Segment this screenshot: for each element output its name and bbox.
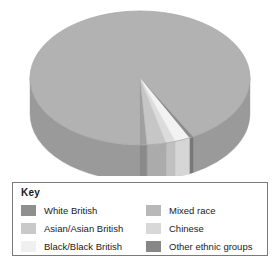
legend-box: Key White British Asian/Asian British Bl… xyxy=(12,182,268,256)
legend-swatch-chinese xyxy=(146,223,161,234)
legend-column-left: White British Asian/Asian British Black/… xyxy=(21,202,149,256)
legend-item[interactable]: Asian/Asian British xyxy=(21,220,149,237)
legend-item[interactable]: Black/Black British xyxy=(21,238,149,255)
pie-side-4 xyxy=(147,143,166,176)
legend-label: Other ethnic groups xyxy=(169,241,252,252)
pie-top-faces xyxy=(30,11,250,145)
legend-swatch-mixed-race xyxy=(146,205,161,216)
legend-item[interactable]: Other ethnic groups xyxy=(146,238,266,255)
legend-title: Key xyxy=(21,187,40,198)
legend-label: Asian/Asian British xyxy=(44,223,123,234)
legend-swatch-asian-asian-british xyxy=(21,223,36,234)
pie-svg xyxy=(0,0,278,176)
legend-column-right: Mixed race Chinese Other ethnic groups xyxy=(146,202,266,256)
legend-swatch-other-ethnic-groups xyxy=(146,241,161,252)
legend-swatch-black-black-british xyxy=(21,241,36,252)
pie-chart-graphic xyxy=(0,0,278,176)
legend-label: White British xyxy=(44,205,97,216)
legend-label: Mixed race xyxy=(169,205,215,216)
legend-label: Chinese xyxy=(169,223,204,234)
pie-side-5 xyxy=(140,145,147,176)
pie-side-1 xyxy=(189,137,193,174)
legend-item[interactable]: Mixed race xyxy=(146,202,266,219)
pie-chart-figure: Key White British Asian/Asian British Bl… xyxy=(0,0,278,267)
pie-side-3 xyxy=(166,141,175,176)
legend-item[interactable]: Chinese xyxy=(146,220,266,237)
legend-swatch-white-british xyxy=(21,205,36,216)
legend-label: Black/Black British xyxy=(44,241,122,252)
pie-side-2 xyxy=(175,138,189,176)
legend-item[interactable]: White British xyxy=(21,202,149,219)
